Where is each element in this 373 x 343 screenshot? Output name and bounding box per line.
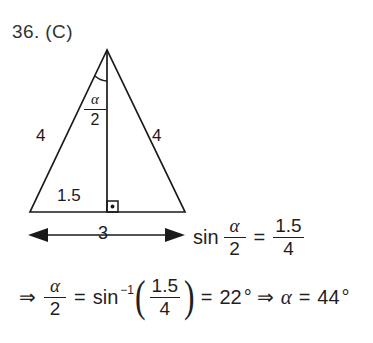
arrow-head-right-icon xyxy=(165,228,185,242)
worked-solution-page: 36. (C) 4 4 1.5 3 α 2 xyxy=(0,0,373,343)
fraction-numerator: 1.5 xyxy=(273,216,303,237)
equals-sign: = xyxy=(254,226,266,249)
right-angle-dot-icon xyxy=(111,205,115,209)
fraction-numerator: α xyxy=(48,276,62,297)
equation-alpha-solution: ⇒ α 2 = sin −1 ( 1.5 4 ) = 22 ° ⇒ α = 44… xyxy=(14,276,350,319)
degree-symbol: ° xyxy=(342,286,350,309)
fraction-denominator: 2 xyxy=(48,298,63,319)
apex-angle-numerator: α xyxy=(84,92,106,108)
fraction-denominator: 4 xyxy=(281,238,296,259)
fraction-alpha-over-two: α 2 xyxy=(224,216,246,259)
half-angle-value: 22 xyxy=(219,286,241,309)
alpha-value: 44 xyxy=(317,286,339,309)
apex-angle-fraction-bar xyxy=(84,109,106,110)
fraction-numerator: α xyxy=(228,216,242,237)
arcsin-function-label: sin xyxy=(93,286,119,309)
equals-sign: = xyxy=(299,286,311,309)
label-right-side-length: 4 xyxy=(152,126,161,146)
fraction-denominator: 4 xyxy=(158,298,173,319)
fraction-denominator: 2 xyxy=(227,238,242,259)
apex-angle-denominator: 2 xyxy=(84,111,106,128)
degree-symbol: ° xyxy=(244,286,252,309)
arrow-head-left-icon xyxy=(28,228,48,242)
fraction-alpha-over-two: α 2 xyxy=(44,276,66,319)
inverse-exponent-label: −1 xyxy=(120,283,134,297)
label-base-length: 3 xyxy=(98,223,108,244)
open-paren: ( xyxy=(135,281,146,314)
label-half-base-length: 1.5 xyxy=(57,186,81,206)
apex-angle-arc-icon xyxy=(95,76,107,81)
fraction-numerator: 1.5 xyxy=(150,276,180,297)
sin-function-label: sin xyxy=(193,226,219,249)
implies-arrow-icon: ⇒ xyxy=(19,285,36,309)
fraction-one-point-five-over-four: 1.5 4 xyxy=(273,216,303,259)
close-paren: ) xyxy=(184,281,195,314)
implies-arrow-icon: ⇒ xyxy=(257,285,274,309)
equals-sign: = xyxy=(201,286,213,309)
equals-sign: = xyxy=(74,286,86,309)
triangle-figure: 4 4 1.5 3 α 2 xyxy=(0,0,210,260)
triangle-svg xyxy=(0,0,210,260)
alpha-symbol: α xyxy=(281,285,292,310)
fraction-one-point-five-over-four: 1.5 4 xyxy=(150,276,180,319)
label-left-side-length: 4 xyxy=(36,126,45,146)
equation-sin-relation: sin α 2 = 1.5 4 xyxy=(191,216,307,259)
apex-angle-label: α 2 xyxy=(84,92,106,128)
